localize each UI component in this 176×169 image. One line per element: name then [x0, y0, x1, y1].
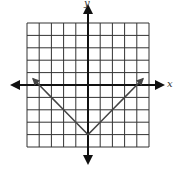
x-axis-label: x: [167, 78, 173, 89]
axes: [12, 6, 163, 163]
coordinate-plane: [0, 0, 176, 169]
y-axis-label: y: [84, 0, 90, 8]
